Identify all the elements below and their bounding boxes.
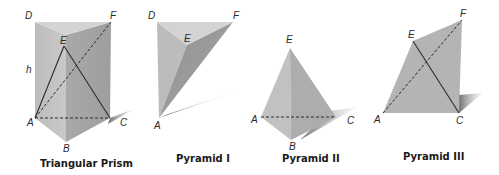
- pyramid-3-figure: E F A C Pyramid III: [373, 8, 483, 162]
- pyramid-2-figure: E A B C Pyramid II: [250, 34, 357, 164]
- caption-triangular-prism: Triangular Prism: [40, 158, 133, 169]
- label-E: E: [408, 29, 415, 40]
- label-A: A: [26, 117, 34, 128]
- label-E: E: [60, 35, 67, 46]
- label-B: B: [289, 141, 296, 152]
- label-E: E: [286, 34, 293, 45]
- label-F: F: [110, 10, 117, 21]
- prism-right-face: [66, 22, 111, 142]
- caption-pyramid-3: Pyramid III: [403, 151, 464, 162]
- label-C: C: [456, 115, 464, 126]
- pyramid2-left-face: [261, 48, 291, 140]
- label-C: C: [347, 115, 355, 126]
- label-D: D: [148, 10, 155, 21]
- label-E: E: [184, 33, 191, 44]
- label-h: h: [26, 64, 32, 75]
- label-A: A: [153, 120, 161, 131]
- pyramid2-right-face: [290, 48, 336, 140]
- label-A: A: [373, 114, 381, 125]
- triangular-prism-figure: D E F h A B C Triangular Prism: [25, 10, 136, 169]
- caption-pyramid-2: Pyramid II: [282, 153, 340, 164]
- pyramid-1-figure: D E F A Pyramid I: [148, 10, 240, 164]
- label-C: C: [120, 117, 128, 128]
- label-F: F: [460, 8, 467, 19]
- label-B: B: [63, 143, 70, 154]
- caption-pyramid-1: Pyramid I: [176, 153, 230, 164]
- label-A: A: [250, 114, 258, 125]
- pyramid3-shadow: [459, 93, 483, 113]
- solids-diagram: D E F h A B C Triangular Prism D E F A P…: [0, 0, 499, 175]
- label-F: F: [233, 10, 240, 21]
- label-D: D: [25, 10, 32, 21]
